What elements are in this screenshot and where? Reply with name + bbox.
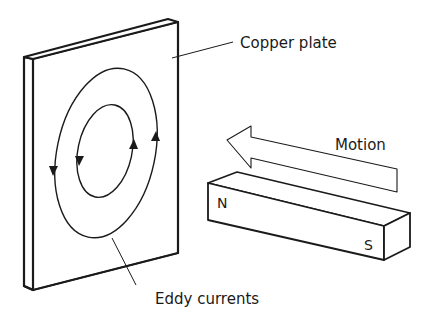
copper-plate-leader <box>172 42 233 58</box>
south-pole-label: S <box>364 237 373 253</box>
copper-plate-label: Copper plate <box>240 34 337 52</box>
eddy-current-diagram: Copper plate Eddy currents Motion N S <box>0 0 438 322</box>
eddy-currents-label: Eddy currents <box>155 290 259 308</box>
motion-label: Motion <box>335 136 386 154</box>
north-pole-label: N <box>217 195 227 211</box>
